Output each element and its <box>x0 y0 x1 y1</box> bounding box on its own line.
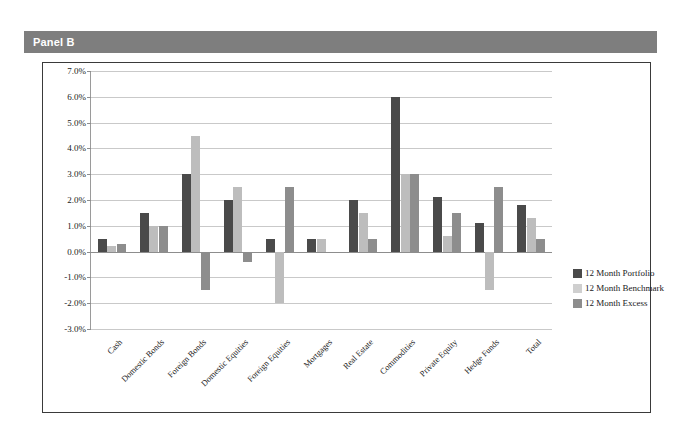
bar-excess <box>494 187 503 252</box>
y-axis-tick-label: 3.0% <box>67 169 91 179</box>
bar-portfolio <box>224 200 233 252</box>
bar-benchmark <box>191 136 200 252</box>
bar-excess <box>201 252 210 291</box>
x-axis-label: Commodities <box>378 337 417 376</box>
bar-group <box>426 71 468 329</box>
bar-benchmark <box>233 187 242 252</box>
legend-label: 12 Month Excess <box>585 298 648 308</box>
legend-swatch-portfolio <box>573 269 582 278</box>
bar-portfolio <box>433 197 442 251</box>
bar-group <box>91 71 133 329</box>
bar-excess <box>159 226 168 252</box>
y-axis-tick-label: 6.0% <box>67 92 91 102</box>
bar-excess <box>536 239 545 252</box>
bar-benchmark <box>443 236 452 251</box>
x-axis-label: Total <box>524 337 543 356</box>
bar-benchmark <box>527 218 536 252</box>
bar-group <box>510 71 552 329</box>
y-axis-tick-label: -3.0% <box>64 324 91 334</box>
bar-excess <box>368 239 377 252</box>
x-axis-label: Domestic Bonds <box>119 337 166 384</box>
bar-benchmark <box>149 226 158 252</box>
legend-swatch-excess <box>573 299 582 308</box>
bar-benchmark <box>485 252 494 291</box>
x-axis-label: Cash <box>105 337 124 356</box>
x-axis-label: Mortgages <box>301 337 334 370</box>
y-axis-tick-label: 1.0% <box>67 221 91 231</box>
chart-frame: 7.0%6.0%5.0%4.0%3.0%2.0%1.0%0.0%-1.0%-2.… <box>42 62 651 413</box>
bar-portfolio <box>517 205 526 251</box>
bar-group <box>384 71 426 329</box>
bar-portfolio <box>266 239 275 252</box>
y-axis-tick-label: 2.0% <box>67 195 91 205</box>
bar-group <box>175 71 217 329</box>
bar-excess <box>117 244 126 252</box>
x-axis-label: Hedge Funds <box>462 337 501 376</box>
legend-label: 12 Month Benchmark <box>585 283 664 293</box>
x-axis-label: Foreign Bonds <box>165 337 208 380</box>
bar-portfolio <box>140 213 149 252</box>
bar-portfolio <box>307 239 316 252</box>
panel-title: Panel B <box>24 36 75 48</box>
bar-group <box>133 71 175 329</box>
bar-group <box>217 71 259 329</box>
bar-benchmark <box>317 239 326 252</box>
y-axis-tick-label: -2.0% <box>64 298 91 308</box>
y-axis-tick-label: 5.0% <box>67 118 91 128</box>
legend-label: 12 Month Portfolio <box>585 268 655 278</box>
bar-excess <box>452 213 461 252</box>
legend-item: 12 Month Excess <box>573 298 664 308</box>
bar-portfolio <box>182 174 191 251</box>
y-axis-tick-label: 0.0% <box>67 247 91 257</box>
bar-portfolio <box>475 223 484 251</box>
bar-excess <box>285 187 294 252</box>
bar-group <box>342 71 384 329</box>
y-axis-tick-label: 7.0% <box>67 66 91 76</box>
bar-group <box>301 71 343 329</box>
y-axis-tick-label: 4.0% <box>67 143 91 153</box>
page-root: Panel B 7.0%6.0%5.0%4.0%3.0%2.0%1.0%0.0%… <box>0 0 682 434</box>
bar-portfolio <box>391 97 400 252</box>
bar-group <box>468 71 510 329</box>
bar-benchmark <box>401 174 410 251</box>
gridline <box>91 329 552 330</box>
bar-excess <box>410 174 419 251</box>
bar-portfolio <box>98 239 107 252</box>
bar-benchmark <box>107 246 116 251</box>
plot-area: 7.0%6.0%5.0%4.0%3.0%2.0%1.0%0.0%-1.0%-2.… <box>90 71 552 329</box>
legend-item: 12 Month Benchmark <box>573 283 664 293</box>
y-axis-tick-label: -1.0% <box>64 272 91 282</box>
chart-legend: 12 Month Portfolio12 Month Benchmark12 M… <box>573 268 664 313</box>
bar-benchmark <box>359 213 368 252</box>
bar-group <box>259 71 301 329</box>
x-axis-labels: CashDomestic BondsForeign BondsDomestic … <box>90 337 552 407</box>
x-axis-label: Private Equity <box>418 337 460 379</box>
bar-benchmark <box>275 252 284 304</box>
panel-header-bar: Panel B <box>24 31 657 53</box>
bar-portfolio <box>349 200 358 252</box>
x-axis-label: Real Estate <box>341 337 375 371</box>
legend-swatch-benchmark <box>573 284 582 293</box>
bar-excess <box>243 252 252 262</box>
bar-groups <box>91 71 552 329</box>
x-axis-label: Foreign Equities <box>245 337 292 384</box>
legend-item: 12 Month Portfolio <box>573 268 664 278</box>
